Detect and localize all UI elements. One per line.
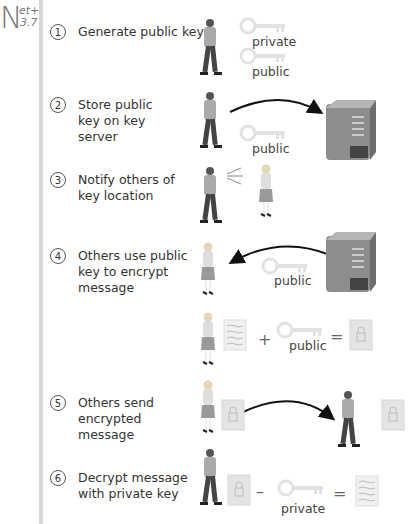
public-key-label: public — [274, 273, 312, 288]
person-icon — [200, 448, 224, 508]
encrypted-document-icon — [382, 400, 404, 430]
plaintext-document-icon — [224, 320, 246, 350]
decrypted-document-icon — [356, 476, 378, 506]
private-key-icon — [278, 480, 328, 496]
public-key-icon — [240, 125, 290, 141]
key-server-icon — [326, 100, 376, 162]
equals-sign: = — [333, 484, 346, 503]
plus-sign: + — [258, 330, 271, 349]
minus-sign: – — [256, 482, 264, 501]
encrypted-document-icon — [228, 475, 250, 505]
equals-sign: = — [330, 327, 343, 346]
woman-icon — [200, 242, 218, 298]
person-icon — [338, 390, 362, 450]
woman-icon — [200, 312, 218, 368]
public-key-label: public — [289, 338, 327, 353]
public-key-icon — [277, 322, 327, 338]
encrypted-document-icon — [350, 320, 372, 350]
encrypted-document-icon — [222, 400, 244, 430]
public-key-label: public — [252, 141, 290, 156]
key-server-icon — [326, 232, 376, 294]
person-speaking-icon — [200, 166, 224, 226]
speech-lines-icon — [225, 166, 245, 186]
woman-icon — [200, 380, 218, 436]
woman-icon — [258, 164, 276, 220]
public-key-icon — [262, 258, 312, 274]
private-key-label: private — [281, 501, 325, 516]
